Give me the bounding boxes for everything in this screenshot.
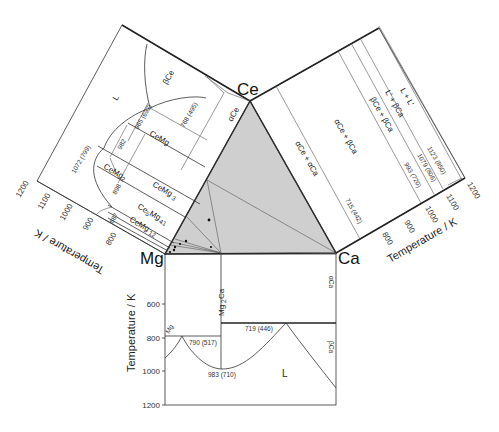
svg-text:Ca: Ca	[217, 288, 226, 299]
svg-text:900: 900	[81, 215, 96, 232]
vertex-label-ce: Ce	[237, 80, 259, 99]
phase-label-cemg: CeMg	[148, 129, 171, 147]
svg-text:1000: 1000	[142, 367, 160, 376]
data-point	[174, 246, 176, 248]
svg-text:12: 12	[147, 229, 157, 239]
data-point	[208, 219, 211, 222]
annotation-715: 715 (442)	[343, 197, 364, 225]
annotation-898: 898	[111, 182, 123, 195]
annotation-768: 768 (495)	[179, 101, 200, 129]
vertex-label-ca: Ca	[338, 249, 360, 268]
svg-text:Mg: Mg	[217, 305, 226, 316]
svg-text:1200: 1200	[465, 181, 482, 201]
ce-mg-axis-ticks: 800 900 1000 1100 1200	[14, 179, 119, 247]
mg-ca-axis-label: Temperature / K	[125, 293, 137, 372]
svg-text:1200: 1200	[142, 401, 160, 410]
annotation-1072: 1072 (799)	[70, 144, 93, 175]
svg-text:3: 3	[170, 194, 177, 202]
phase-label-liquid-bottom: L	[282, 368, 288, 379]
svg-text:1000: 1000	[423, 205, 440, 225]
mg-ca-axis-ticks: 600 800 1000 1200	[142, 300, 160, 410]
phase-diagram: L βCe αCe 768 (495) 965 (692) CeMg 982 1…	[0, 0, 499, 432]
phase-label-alpha-ca: αCa	[328, 276, 335, 288]
phase-label-beta-ce: βCe	[161, 68, 176, 86]
annotation-983: 983 (710)	[208, 371, 236, 379]
svg-text:41: 41	[158, 218, 168, 228]
data-point	[173, 249, 175, 251]
data-point	[179, 243, 181, 245]
diagram-canvas: L βCe αCe 768 (495) 965 (692) CeMg 982 1…	[0, 0, 499, 432]
data-point	[210, 246, 212, 248]
data-point	[185, 240, 187, 242]
phase-label-ace-bca: αCe + βCa	[332, 118, 359, 157]
svg-text:600: 600	[147, 300, 161, 309]
vertex-label-mg: Mg	[140, 249, 164, 268]
phase-label-cemg2: CeMg 2	[102, 162, 129, 183]
annotation-965: 965 (692)	[133, 103, 154, 131]
annotation-993: 993 (720)	[402, 161, 423, 189]
annotation-790: 790 (517)	[189, 339, 217, 347]
data-point	[169, 251, 171, 253]
svg-text:1000: 1000	[58, 202, 75, 222]
annotation-719: 719 (446)	[245, 325, 273, 333]
svg-text:1100: 1100	[444, 193, 461, 213]
svg-text:1100: 1100	[36, 191, 53, 211]
annotation-982: 982	[116, 137, 128, 150]
ce-mg-axis-label: Temperature / K	[32, 227, 106, 277]
svg-text:800: 800	[147, 334, 161, 343]
ternary-triangle	[165, 101, 336, 254]
svg-text:1200: 1200	[14, 179, 31, 199]
ce-ca-axis-label: Temperature / K	[385, 215, 459, 265]
phase-label-ace-aca: αCe + αCa	[293, 140, 320, 179]
phase-label-beta-ca: βCa	[327, 341, 335, 353]
phase-label-mg2ca: Mg 2 Ca	[217, 288, 227, 316]
phase-label-mg: Mg	[164, 323, 176, 335]
svg-text:800: 800	[104, 230, 119, 247]
svg-text:800: 800	[380, 231, 395, 248]
phase-label-cemg3: CeMg 3	[151, 180, 179, 202]
svg-text:900: 900	[402, 219, 417, 236]
phase-label-liquid: L	[111, 93, 121, 102]
